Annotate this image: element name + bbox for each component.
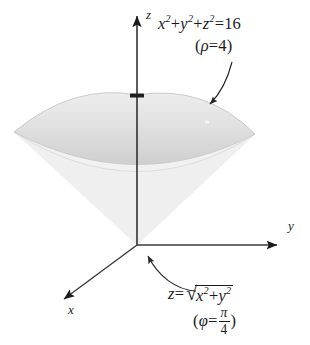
cone-eq-radical-group: √x2+y2 xyxy=(184,283,233,303)
x-axis-label: x xyxy=(68,303,74,316)
phi-symbol: φ xyxy=(199,311,208,330)
sphere-eq-x: x xyxy=(158,14,166,33)
cone-eq-equals: = xyxy=(175,284,185,303)
cone-eq-z: z xyxy=(168,284,175,303)
spherical-coordinates-figure: z y x x2+y2+z2=16 (ρ=4) z=√x2+y2 (φ=π4) xyxy=(0,0,310,345)
cone-eq-radicand: x2+y2 xyxy=(195,285,233,304)
rho-paren-close: ) xyxy=(227,36,233,55)
sphere-eq-plus-1: + xyxy=(171,14,181,33)
rho-value: 4 xyxy=(218,36,226,55)
cone-equation: z=√x2+y2 xyxy=(168,283,233,303)
phi-equals: = xyxy=(208,311,218,330)
phi-paren-close: ) xyxy=(231,311,237,330)
sphere-pointer-arrow xyxy=(210,62,232,104)
z-axis-tick-4 xyxy=(130,94,144,98)
sphere-eq-equals: = xyxy=(215,14,225,33)
sphere-equation: x2+y2+z2=16 xyxy=(158,14,241,32)
x-axis xyxy=(64,245,137,299)
cone-eq-x: x xyxy=(196,285,204,304)
y-axis-label: y xyxy=(288,219,294,232)
cone-eq-y: y xyxy=(218,285,226,304)
cone-eq-plus: + xyxy=(209,285,219,304)
sphere-eq-rhs: 16 xyxy=(224,14,241,33)
z-axis-label: z xyxy=(146,8,151,21)
sphere-eq-plus-2: + xyxy=(193,14,203,33)
sphere-parameter: (ρ=4) xyxy=(195,38,233,55)
phi-fraction: π4 xyxy=(219,306,230,337)
phi-denominator: 4 xyxy=(219,321,230,337)
sphere-eq-y: y xyxy=(180,14,188,33)
phi-numerator: π xyxy=(219,306,230,321)
cone-eq-y-exp: 2 xyxy=(226,285,231,296)
rho-symbol: ρ xyxy=(201,36,209,55)
rho-equals: = xyxy=(209,36,219,55)
diagram-canvas xyxy=(0,0,310,345)
cone-parameter: (φ=π4) xyxy=(193,307,236,338)
